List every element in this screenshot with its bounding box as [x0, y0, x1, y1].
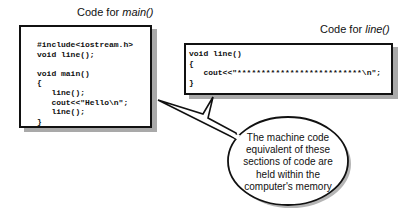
diagram-canvas: Code for main() #include<iostream.h> voi… — [0, 0, 416, 215]
callout-graphic — [0, 0, 416, 215]
callout-text: The machine code equivalent of these sec… — [236, 132, 340, 193]
callout-tail — [158, 97, 238, 140]
